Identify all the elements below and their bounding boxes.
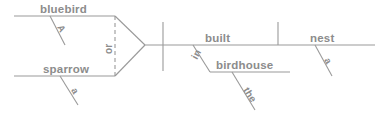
prep-object-word-birdhouse: birdhouse — [216, 59, 273, 71]
nest-article-label: a — [322, 56, 335, 66]
subject-word-sparrow: sparrow — [43, 63, 89, 75]
subject-word-bluebird: bluebird — [40, 3, 87, 15]
sentence-diagram: bluebird A sparrow a or built nest a in … — [0, 0, 383, 118]
bluebird-article-label: A — [55, 23, 68, 34]
lower-branch-converge-arm — [115, 45, 145, 76]
verb-word-built: built — [205, 32, 230, 44]
prep-object-article-label: the — [241, 85, 259, 104]
diagram-canvas: bluebird A sparrow a or built nest a in … — [0, 0, 383, 118]
upper-branch-converge-arm — [115, 16, 145, 45]
object-word-nest: nest — [310, 32, 334, 44]
conjunction-label-or: or — [103, 44, 114, 54]
preposition-label-in: in — [189, 48, 203, 61]
